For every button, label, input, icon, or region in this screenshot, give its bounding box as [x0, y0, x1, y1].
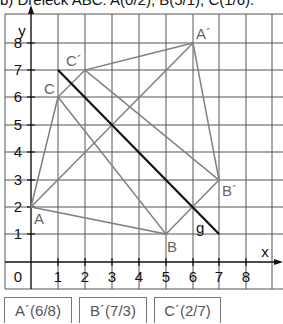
- axes: [5, 8, 280, 289]
- x-axis-label: x: [261, 243, 269, 260]
- y-tick-5: 5: [14, 116, 22, 133]
- label-c-prime: C´: [66, 52, 82, 69]
- x-axis-arrow-icon: [274, 259, 283, 265]
- y-tick-8: 8: [14, 34, 22, 51]
- triangle-abc: [31, 97, 166, 234]
- x-tick-7: 7: [215, 268, 223, 285]
- label-a-prime: A´: [196, 25, 211, 42]
- y-tick-7: 7: [14, 61, 22, 78]
- coordinate-grid: y 8 7 6 5 4 3 2 1 0 1 2 3 4 5 6 7 8 x A …: [0, 0, 283, 296]
- answer-box-a-prime: A´(6/8): [4, 297, 72, 323]
- label-b-prime: B´: [222, 182, 237, 199]
- y-tick-1: 1: [14, 225, 22, 242]
- answer-c-prime: C´(2/7): [164, 302, 211, 319]
- label-g: g: [196, 219, 204, 236]
- x-tick-5: 5: [162, 268, 170, 285]
- y-tick-3: 3: [14, 171, 22, 188]
- answer-box-b-prime: B´(7/3): [79, 297, 147, 323]
- x-tick-1: 1: [54, 268, 62, 285]
- label-b: B: [167, 238, 177, 255]
- x-tick-3: 3: [108, 268, 116, 285]
- answer-b-prime: B´(7/3): [90, 302, 136, 319]
- answer-a-prime: A´(6/8): [15, 302, 61, 319]
- triangle-abc-prime: [85, 43, 219, 180]
- origin-label: 0: [14, 268, 22, 285]
- y-tick-4: 4: [14, 143, 22, 160]
- x-tick-4: 4: [135, 268, 143, 285]
- x-tick-6: 6: [189, 268, 197, 285]
- answer-box-c-prime: C´(2/7): [154, 297, 221, 323]
- label-c: C: [44, 80, 55, 97]
- y-tick-2: 2: [14, 198, 22, 215]
- x-tick-2: 2: [81, 268, 89, 285]
- label-a: A: [34, 210, 44, 227]
- y-tick-6: 6: [14, 88, 22, 105]
- x-tick-8: 8: [242, 268, 250, 285]
- y-axis-arrow-icon: [28, 5, 34, 14]
